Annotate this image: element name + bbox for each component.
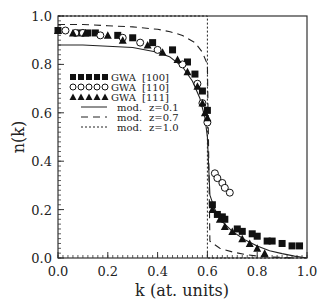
square-marker xyxy=(269,238,276,245)
square-marker xyxy=(86,74,92,80)
square-marker xyxy=(279,240,286,247)
circle-marker xyxy=(94,84,100,90)
square-marker xyxy=(149,39,156,46)
triangle-marker xyxy=(104,31,112,39)
square-marker xyxy=(169,46,176,53)
triangle-marker xyxy=(94,94,101,101)
circle-marker xyxy=(86,84,92,90)
y-tick-label: 0.4 xyxy=(31,154,52,169)
square-marker xyxy=(94,74,100,80)
circle-marker xyxy=(62,27,69,34)
legend-label: mod. xyxy=(117,122,142,133)
y-tick-label: 0.8 xyxy=(31,57,52,72)
x-tick-label: 0.0 xyxy=(48,264,69,279)
plot-frame xyxy=(58,16,307,258)
y-tick-label: 0.6 xyxy=(31,106,52,121)
x-tick-label: 0.6 xyxy=(197,264,218,279)
triangle-marker xyxy=(78,94,85,101)
x-tick-label: 0.2 xyxy=(97,264,118,279)
circle-marker xyxy=(102,84,108,90)
y-axis-label: n(k) xyxy=(9,121,28,153)
legend: GWA[100]GWA[110]GWA[111]mod.z=0.1mod.z=0… xyxy=(70,72,179,133)
circle-marker xyxy=(70,84,76,90)
circle-marker xyxy=(226,189,233,196)
square-marker xyxy=(78,74,84,80)
legend-param: z=1.0 xyxy=(149,122,179,133)
triangle-marker xyxy=(70,94,77,101)
triangle-marker xyxy=(174,56,182,64)
square-marker xyxy=(289,242,296,249)
curve-mod-z-1-0 xyxy=(58,16,307,258)
x-axis-label: k (at. units) xyxy=(135,281,229,300)
circle-marker xyxy=(97,32,104,39)
circle-marker xyxy=(137,39,144,46)
square-marker xyxy=(102,74,108,80)
model-curves xyxy=(58,16,307,258)
square-marker xyxy=(70,74,76,80)
square-marker xyxy=(296,242,303,249)
data-points xyxy=(54,27,303,257)
triangle-marker xyxy=(253,244,261,252)
x-tick-label: 1.0 xyxy=(297,264,318,279)
circle-marker xyxy=(78,84,84,90)
x-tick-label: 0.4 xyxy=(147,264,168,279)
y-tick-label: 0.2 xyxy=(31,203,52,218)
triangle-marker xyxy=(86,94,93,101)
square-marker xyxy=(254,233,261,240)
triangle-marker xyxy=(183,68,191,76)
y-tick-label: 1.0 xyxy=(31,9,52,24)
square-marker xyxy=(129,34,136,41)
triangle-marker xyxy=(102,94,109,101)
momentum-distribution-chart: 0.00.20.40.60.81.00.00.20.40.60.81.0 GWA… xyxy=(0,0,327,308)
square-marker xyxy=(239,228,246,235)
x-tick-label: 0.8 xyxy=(247,264,268,279)
y-tick-label: 0.0 xyxy=(31,251,52,266)
circle-marker xyxy=(154,46,161,53)
square-marker xyxy=(191,71,198,78)
